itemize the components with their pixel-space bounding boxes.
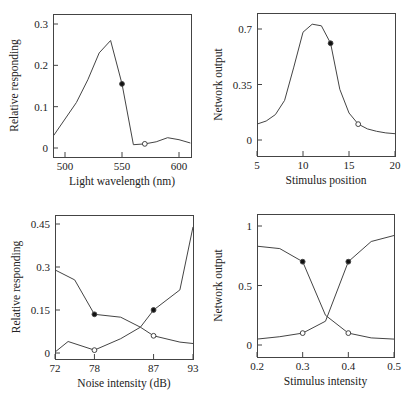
plot-area-frame bbox=[258, 215, 395, 358]
plot-area-frame bbox=[56, 216, 194, 360]
filled-marker bbox=[346, 259, 351, 264]
x-tick-label: 0.4 bbox=[341, 360, 355, 372]
y-tick-label: 0.7 bbox=[238, 23, 252, 35]
series-line-output bbox=[257, 24, 395, 134]
open-marker bbox=[142, 141, 147, 146]
filled-marker bbox=[151, 308, 156, 313]
open-marker bbox=[151, 333, 156, 338]
filled-marker bbox=[92, 312, 97, 317]
chart-panel-wavelength: 50055060000.10.20.3Light wavelength (nm)… bbox=[8, 15, 192, 189]
chart-panel-noise-intensity: 7278879300.150.30.45Noise intensity (dB)… bbox=[10, 216, 199, 391]
series-line-decreasing bbox=[55, 270, 193, 344]
x-axis-label: Stimulus position bbox=[286, 174, 367, 187]
y-axis-label: Network output bbox=[212, 47, 225, 120]
x-tick-label: 0.5 bbox=[387, 360, 401, 372]
y-axis-label: Relative responding bbox=[10, 241, 23, 334]
filled-marker bbox=[328, 41, 333, 46]
open-marker bbox=[346, 331, 351, 336]
series-line-increasing bbox=[257, 236, 394, 340]
x-axis-label: Stimulus intensity bbox=[284, 375, 368, 388]
y-tick-label: 0.15 bbox=[31, 304, 51, 316]
x-tick-label: 550 bbox=[114, 160, 131, 172]
chart-panel-stimulus-intensity: 0.20.30.40.500.51Stimulus intensityNetwo… bbox=[212, 215, 401, 389]
filled-marker bbox=[120, 82, 125, 87]
x-axis-label: Light wavelength (nm) bbox=[69, 175, 175, 188]
x-tick-label: 5 bbox=[254, 159, 260, 171]
y-tick-label: 0.5 bbox=[238, 280, 252, 292]
series-line-increasing bbox=[55, 227, 193, 352]
y-tick-label: 1 bbox=[247, 220, 253, 232]
series-line-response bbox=[54, 41, 191, 145]
y-tick-label: 0.3 bbox=[34, 18, 48, 30]
figure-four-panel-chart: 50055060000.10.20.3Light wavelength (nm)… bbox=[0, 0, 413, 403]
x-tick-label: 15 bbox=[344, 159, 356, 171]
y-tick-label: 0.45 bbox=[31, 218, 51, 230]
x-tick-label: 0.3 bbox=[296, 360, 310, 372]
y-tick-label: 0.35 bbox=[233, 79, 253, 91]
y-axis-label: Network output bbox=[212, 248, 225, 321]
x-tick-label: 93 bbox=[188, 362, 200, 374]
x-tick-label: 78 bbox=[89, 362, 101, 374]
x-axis-label: Noise intensity (dB) bbox=[77, 377, 170, 390]
y-axis-label: Relative responding bbox=[8, 39, 21, 132]
y-tick-label: 0 bbox=[43, 142, 49, 154]
x-tick-label: 500 bbox=[57, 160, 74, 172]
y-tick-label: 0 bbox=[247, 134, 253, 146]
x-tick-label: 600 bbox=[171, 160, 188, 172]
y-tick-label: 0.1 bbox=[34, 101, 48, 113]
x-tick-label: 20 bbox=[390, 159, 402, 171]
x-tick-label: 72 bbox=[50, 362, 61, 374]
open-marker bbox=[356, 122, 361, 127]
x-tick-label: 87 bbox=[148, 362, 160, 374]
series-line-decreasing bbox=[257, 246, 394, 339]
x-tick-label: 10 bbox=[298, 159, 310, 171]
y-tick-label: 0 bbox=[45, 347, 51, 359]
x-tick-label: 0.2 bbox=[250, 360, 264, 372]
y-tick-label: 0.3 bbox=[36, 261, 50, 273]
filled-marker bbox=[300, 259, 305, 264]
y-tick-label: 0 bbox=[247, 339, 253, 351]
y-tick-label: 0.2 bbox=[34, 59, 48, 71]
open-marker bbox=[92, 348, 97, 353]
chart-panel-stimulus-position: 510152000.350.7Stimulus positionNetwork … bbox=[212, 14, 401, 188]
open-marker bbox=[300, 331, 305, 336]
